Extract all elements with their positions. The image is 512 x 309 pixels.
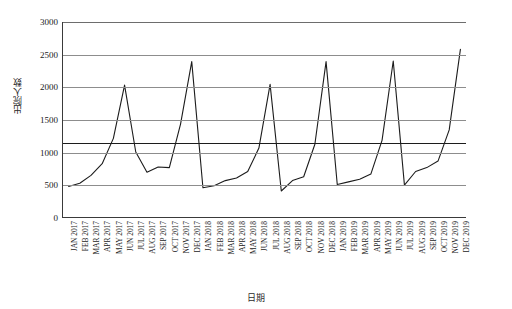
x-tick-label: OCT 2018 [306,221,314,252]
x-tick-label: JUN 2018 [261,221,269,251]
y-axis-tick-labels: 050010001500200025003000 [28,0,58,309]
x-tick-label: AUG 2018 [284,221,292,254]
x-tick-label: MAR 2019 [362,221,370,254]
gridline [63,87,466,88]
x-tick-label: APR 2018 [239,221,247,252]
x-axis-title: 日期 [0,291,512,304]
gridline [63,153,466,154]
x-tick-label: AUG 2017 [149,221,157,254]
gridline [63,185,466,186]
x-tick-label: JUN 2017 [127,221,135,251]
x-tick-label: MAR 2018 [228,221,236,254]
x-tick-label: JAN 2017 [71,221,79,251]
y-tick-label: 2500 [28,50,58,59]
y-tick-label: 1500 [28,116,58,125]
x-tick-label: FEB 2018 [217,221,225,251]
x-tick-label: SEP 2019 [430,221,438,250]
x-tick-label: JAN 2019 [340,221,348,251]
x-tick-label: MAR 2017 [93,221,101,254]
x-tick-label: APR 2019 [374,221,382,252]
x-tick-label: JAN 2018 [205,221,213,251]
x-tick-label: NOV 2018 [318,221,326,254]
x-tick-label: DEC 2017 [194,221,202,252]
x-tick-label: SEP 2018 [295,221,303,250]
x-tick-label: JUN 2019 [396,221,404,251]
y-tick-label: 500 [28,181,58,190]
x-tick-label: JUL 2018 [273,221,281,250]
line-chart: 出院人数 050010001500200025003000 JAN 2017FE… [0,0,512,309]
x-axis-tick-labels: JAN 2017FEB 2017MAR 2017APR 2017MAY 2017… [62,221,466,291]
x-tick-label: NOV 2019 [452,221,460,254]
x-tick-label: APR 2017 [104,221,112,252]
reference-line [63,143,466,145]
x-tick-label: OCT 2017 [172,221,180,252]
gridline [63,22,466,23]
y-tick-label: 2000 [28,83,58,92]
x-tick-label: NOV 2017 [183,221,191,254]
x-tick-label: MAY 2019 [385,221,393,254]
x-tick-label: SEP 2017 [160,221,168,250]
y-tick-label: 1000 [28,148,58,157]
y-tick-label: 3000 [28,18,58,27]
x-tick-label: MAY 2018 [250,221,258,254]
gridline [63,120,466,121]
y-axis-title: 出院人数 [12,78,26,114]
x-tick-label: DEC 2018 [329,221,337,252]
x-tick-label: MAY 2017 [116,221,124,254]
x-tick-label: FEB 2019 [351,221,359,251]
x-tick-label: DEC 2019 [463,221,471,252]
gridline [63,55,466,56]
x-tick-label: OCT 2019 [441,221,449,252]
plot-area [62,22,466,218]
x-tick-label: FEB 2017 [82,221,90,251]
y-tick-label: 0 [28,214,58,223]
x-tick-label: JUL 2017 [138,221,146,250]
x-tick-label: JUL 2019 [407,221,415,250]
x-tick-label: AUG 2019 [419,221,427,254]
